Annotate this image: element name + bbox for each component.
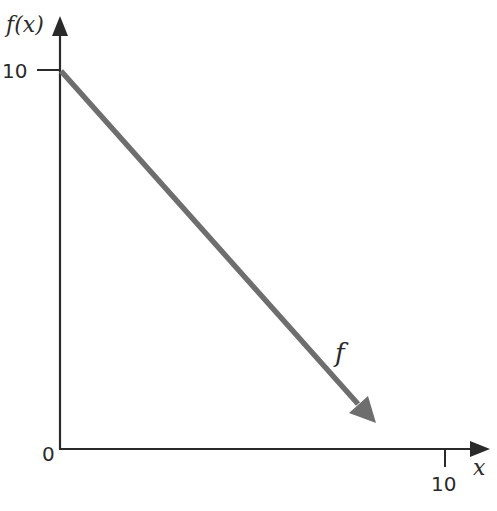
y-tick-label-10: 10 [2,59,27,83]
origin-label: 0 [42,442,55,466]
series-f-line [61,71,358,404]
y-axis-arrow-icon [52,16,68,36]
chart: f(x) 10 0 10 x f [0,0,497,511]
series-f-label: f [333,338,349,368]
y-axis-label: f(x) [4,12,44,37]
x-tick-label-10: 10 [431,472,456,496]
x-axis-label: x [473,455,486,480]
